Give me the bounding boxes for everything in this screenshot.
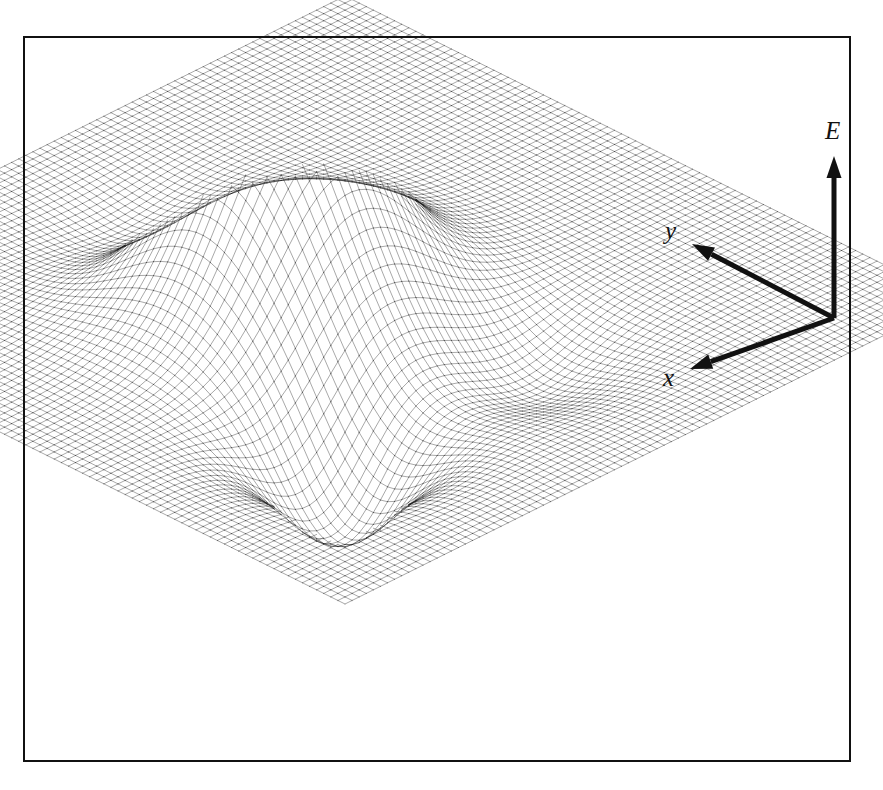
axis-label-e: E: [825, 118, 840, 143]
figure-root: E y x: [0, 0, 883, 790]
axis-label-x: x: [663, 365, 674, 390]
figure-border: [23, 36, 851, 762]
axis-label-y: y: [665, 218, 676, 243]
